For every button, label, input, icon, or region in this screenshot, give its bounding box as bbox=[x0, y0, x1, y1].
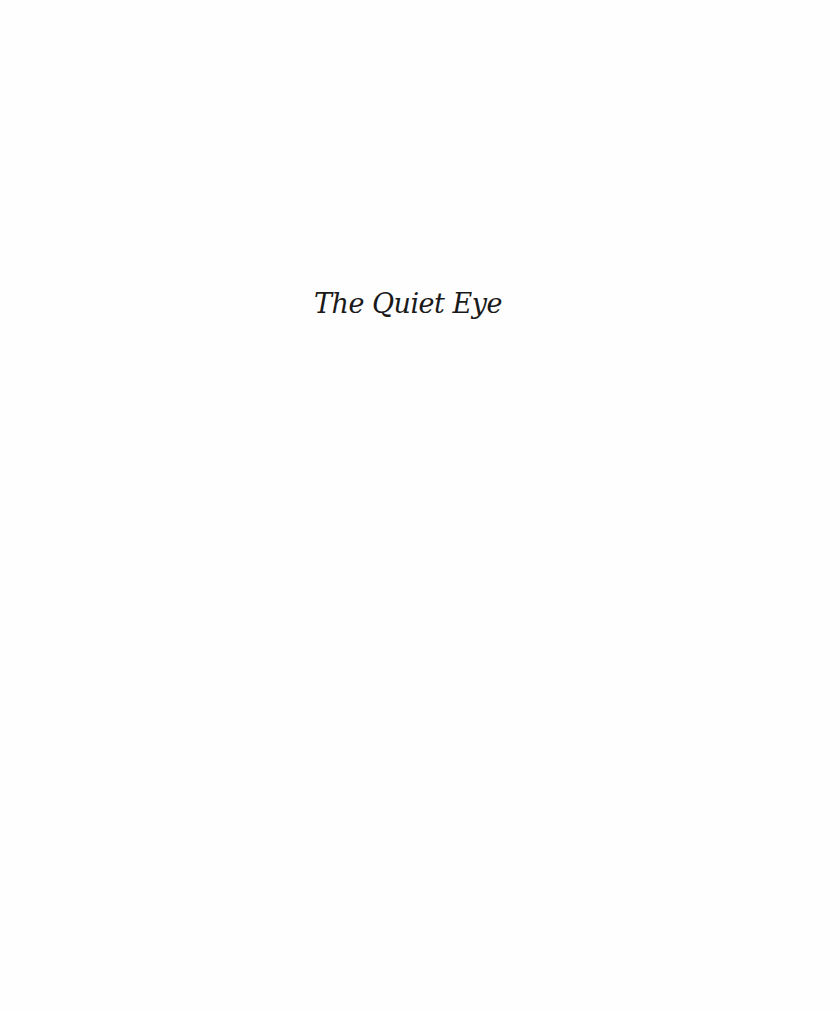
book-title: The Quiet Eye bbox=[0, 284, 816, 324]
book-half-title-page: The Quiet Eye bbox=[0, 0, 840, 1010]
